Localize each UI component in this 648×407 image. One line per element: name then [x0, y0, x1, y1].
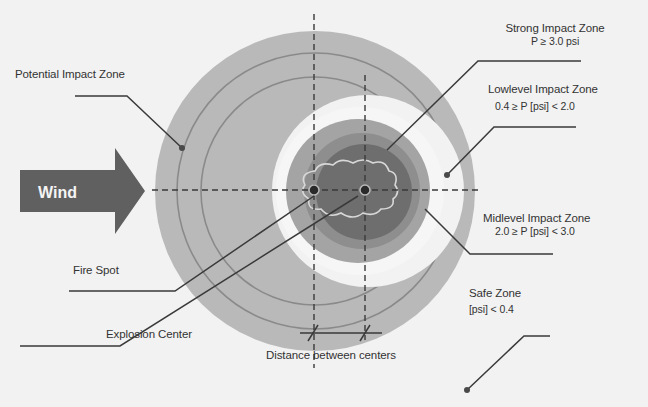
midlevel-impact-zone-title: Midlevel Impact Zone: [483, 212, 590, 224]
safe-zone-title: Safe Zone: [469, 287, 521, 299]
fire-spot-label: Fire Spot: [73, 264, 119, 277]
explosion-impact-zone-diagram: Wind Potential Impact Zone Strong Impact…: [0, 0, 648, 407]
midlevel-impact-zone-label: Midlevel Impact Zone 2.0 ≥ P [psi] < 3.0: [483, 212, 590, 238]
midlevel-impact-zone-range: 2.0 ≥ P [psi] < 3.0: [495, 225, 590, 238]
strong-impact-zone-range: P ≥ 3.0 psi: [490, 35, 620, 48]
lowlevel-impact-zone-label: Lowlevel Impact Zone 0.4 ≥ P [psi] < 2.0: [488, 83, 598, 113]
zone-diagram-graphic: [0, 0, 648, 407]
fire-spot-marker: [309, 185, 319, 195]
strong-impact-zone-label: Strong Impact Zone P ≥ 3.0 psi: [490, 22, 620, 48]
lowlevel-impact-zone-title: Lowlevel Impact Zone: [488, 83, 598, 95]
distance-between-centers-label: Distance between centers: [266, 349, 396, 362]
strong-impact-zone-title: Strong Impact Zone: [505, 22, 604, 34]
wind-label: Wind: [38, 184, 77, 202]
explosion-center-marker: [360, 185, 370, 195]
safe-zone-range: [psi] < 0.4: [469, 303, 521, 316]
lowlevel-impact-zone-range: 0.4 ≥ P [psi] < 2.0: [495, 100, 598, 113]
potential-impact-zone-label: Potential Impact Zone: [15, 68, 125, 81]
explosion-center-label: Explosion Center: [106, 328, 192, 341]
safe-zone-label: Safe Zone [psi] < 0.4: [469, 287, 521, 316]
